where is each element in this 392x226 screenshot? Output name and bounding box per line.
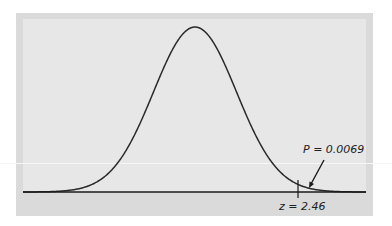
z-value-label: z = 2.46 bbox=[279, 200, 325, 213]
normal-curve bbox=[23, 27, 366, 192]
p-arrow bbox=[311, 160, 324, 184]
p-value-label: P = 0.0069 bbox=[303, 143, 364, 156]
normal-curve-plot bbox=[0, 0, 392, 226]
curve-line bbox=[23, 27, 366, 192]
